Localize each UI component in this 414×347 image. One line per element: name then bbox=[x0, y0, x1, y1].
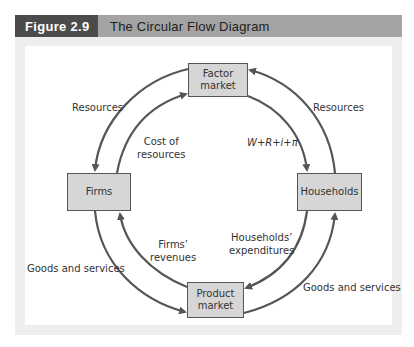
label-households-expenditures: Households’ expenditures bbox=[229, 231, 294, 257]
firms-label: Firms bbox=[86, 186, 113, 199]
firms-node: Firms bbox=[67, 173, 131, 211]
factor-market-line1: Factor bbox=[200, 68, 236, 81]
label-firms-revenues: Firms’ revenues bbox=[150, 238, 196, 264]
label-cost-of-resources: Cost of resources bbox=[137, 135, 185, 161]
label-goods-services-left: Goods and services bbox=[27, 262, 125, 275]
households-node: Households bbox=[297, 173, 362, 211]
product-market-line2: market bbox=[197, 300, 235, 313]
product-market-node: Product market bbox=[187, 282, 244, 318]
arrow-income-to-households bbox=[248, 96, 307, 170]
label-goods-services-right: Goods and services bbox=[303, 281, 401, 294]
factor-market-node: Factor market bbox=[188, 63, 248, 97]
label-resources-left: Resources bbox=[72, 101, 123, 114]
factor-market-line2: market bbox=[200, 80, 236, 93]
arrow-resources-to-factor-market bbox=[250, 70, 335, 173]
arrow-goods-to-households bbox=[244, 214, 335, 313]
product-market-line1: Product bbox=[197, 288, 235, 301]
households-label: Households bbox=[300, 186, 358, 199]
label-income-formula: W+R+i+π bbox=[247, 136, 298, 149]
label-resources-right: Resources bbox=[313, 101, 364, 114]
arrow-cost-to-factor-market bbox=[117, 94, 186, 173]
